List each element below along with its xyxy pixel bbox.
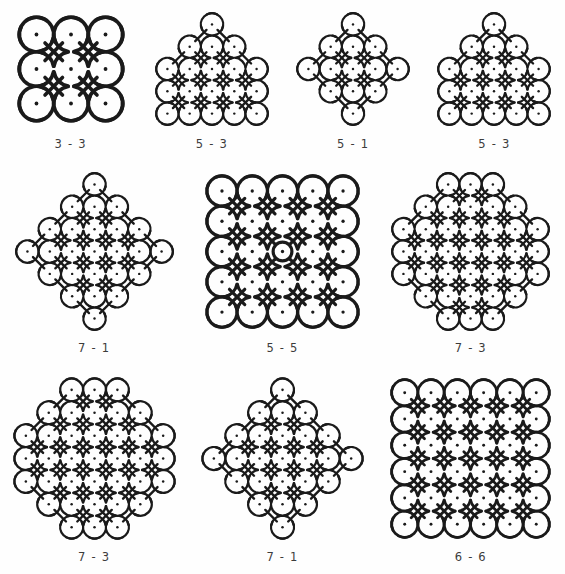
kolam-label: 5 - 1 [337, 139, 369, 151]
kolam-pattern-7-3[interactable]: 7 - 3 [377, 160, 565, 365]
kolam-drawing [290, 6, 416, 132]
kolam-label: 7 - 3 [78, 552, 110, 564]
kolam-row: 3 - 35 - 35 - 15 - 3 [0, 0, 565, 160]
kolam-label: 5 - 3 [478, 139, 510, 151]
kolam-pattern-5-3[interactable]: 5 - 3 [141, 0, 282, 160]
kolam-drawing [431, 6, 557, 132]
dot-layer [307, 23, 399, 115]
kolam-row: 7 - 15 - 57 - 3 [0, 160, 565, 365]
kolam-label: 7 - 1 [266, 552, 298, 564]
kolam-label: 6 - 6 [455, 552, 487, 564]
kolam-pattern-5-3[interactable]: 5 - 3 [424, 0, 565, 160]
dot-layer [213, 389, 353, 529]
kolam-pattern-6-6[interactable]: 6 - 6 [377, 365, 565, 574]
dot-layer [26, 183, 163, 320]
kolam-pattern-7-1[interactable]: 7 - 1 [0, 160, 188, 365]
kolam-pattern-7-1[interactable]: 7 - 1 [188, 365, 376, 574]
kolam-label: 7 - 3 [455, 343, 487, 355]
kolam-label: 3 - 3 [55, 139, 87, 151]
kolam-pattern-5-5[interactable]: 5 - 5 [188, 160, 376, 365]
kolam-chart-sheet: 3 - 35 - 35 - 15 - 37 - 15 - 57 - 37 - 3… [0, 0, 565, 574]
kolam-drawing [7, 371, 182, 546]
kolam-drawing [9, 166, 180, 337]
kolam-drawing [195, 371, 370, 546]
kolam-drawing [8, 6, 134, 132]
kolam-drawing [197, 166, 368, 337]
kolam-label: 5 - 5 [266, 343, 298, 355]
kolam-drawing [149, 6, 275, 132]
kolam-pattern-3-3[interactable]: 3 - 3 [0, 0, 141, 160]
kolam-pattern-7-3[interactable]: 7 - 3 [0, 365, 188, 574]
kolam-label: 7 - 1 [78, 343, 110, 355]
kolam-drawing [383, 371, 558, 546]
kolam-row: 7 - 37 - 16 - 6 [0, 365, 565, 574]
kolam-pattern-grid: 3 - 35 - 35 - 15 - 37 - 15 - 57 - 37 - 3… [0, 0, 565, 574]
kolam-label: 5 - 3 [196, 139, 228, 151]
dot-layer [24, 389, 164, 529]
dot-layer [403, 183, 540, 320]
kolam-drawing [385, 166, 556, 337]
kolam-pattern-5-1[interactable]: 5 - 1 [283, 0, 424, 160]
